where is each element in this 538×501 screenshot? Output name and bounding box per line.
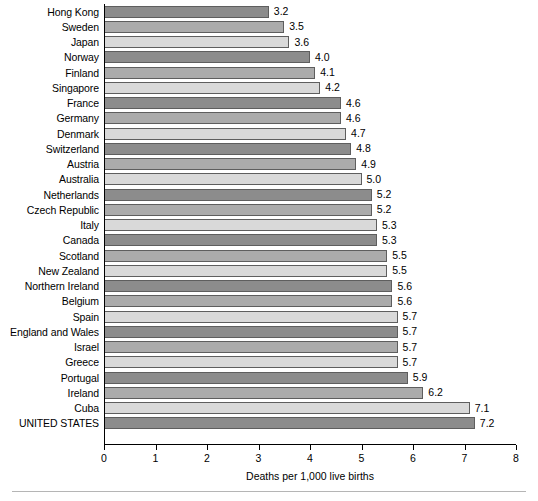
x-axis-tick-label: 8 (501, 452, 531, 464)
chart-bar-row: Japan3.6 (0, 35, 538, 50)
bar-track (104, 82, 320, 94)
bar-track (104, 387, 423, 399)
bar-track (104, 372, 408, 384)
chart-bar-row: Czech Republic5.2 (0, 202, 538, 217)
x-axis-tick (259, 445, 260, 450)
category-label: UNITED STATES (0, 417, 99, 429)
bar-track (104, 311, 398, 323)
bar-track (104, 189, 372, 201)
category-label: England and Wales (0, 326, 99, 338)
bar (104, 112, 341, 124)
category-label: Scotland (0, 250, 99, 262)
chart-bar-row: Greece5.7 (0, 355, 538, 370)
x-axis-tick-label: 2 (192, 452, 222, 464)
x-axis-tick (310, 445, 311, 450)
chart-bar-row: Scotland5.5 (0, 248, 538, 263)
category-label: Spain (0, 311, 99, 323)
chart-bar-row: Italy5.3 (0, 218, 538, 233)
bar (104, 311, 398, 323)
footer-divider-rule (12, 491, 526, 492)
bar (104, 234, 377, 246)
x-axis-tick-label: 6 (398, 452, 428, 464)
chart-bar-row: Norway4.0 (0, 50, 538, 65)
chart-bar-row: Spain5.7 (0, 309, 538, 324)
bar (104, 326, 398, 338)
category-label: Israel (0, 341, 99, 353)
category-label: Portugal (0, 372, 99, 384)
category-label: Australia (0, 173, 99, 185)
x-axis-tick-label: 0 (89, 452, 119, 464)
bar-track (104, 417, 475, 429)
bar-value-label: 5.3 (382, 219, 397, 231)
chart-bar-row: France4.6 (0, 96, 538, 111)
bar (104, 387, 423, 399)
category-label: New Zealand (0, 265, 99, 277)
bar (104, 128, 346, 140)
bar-track (104, 356, 398, 368)
bar (104, 6, 269, 18)
category-label: Italy (0, 219, 99, 231)
chart-bar-row: Singapore4.2 (0, 80, 538, 95)
bar (104, 204, 372, 216)
bar (104, 143, 351, 155)
category-label: Austria (0, 158, 99, 170)
category-label: Ireland (0, 387, 99, 399)
chart-bar-row: England and Wales5.7 (0, 324, 538, 339)
bar (104, 21, 284, 33)
bar-value-label: 5.6 (397, 280, 412, 292)
bar (104, 82, 320, 94)
bar-track (104, 36, 289, 48)
bar-value-label: 4.0 (315, 51, 330, 63)
chart-bar-row: Sweden3.5 (0, 19, 538, 34)
category-label: Cuba (0, 402, 99, 414)
x-axis-tick (413, 445, 414, 450)
category-label: Netherlands (0, 189, 99, 201)
bar (104, 356, 398, 368)
bar-value-label: 5.2 (377, 203, 392, 215)
bar-value-label: 5.6 (397, 295, 412, 307)
bar-value-label: 4.7 (351, 127, 366, 139)
chart-bar-row: Cuba7.1 (0, 401, 538, 416)
bar (104, 341, 398, 353)
bar-value-label: 5.7 (403, 341, 418, 353)
chart-bar-row: Portugal5.9 (0, 370, 538, 385)
bar (104, 97, 341, 109)
chart-bar-row: Finland4.1 (0, 65, 538, 80)
bar-value-label: 5.9 (413, 371, 428, 383)
bar-value-label: 5.5 (392, 264, 407, 276)
bar-value-label: 4.8 (356, 142, 371, 154)
bar-value-label: 5.0 (367, 173, 382, 185)
bar (104, 280, 392, 292)
bar-track (104, 97, 341, 109)
x-axis-title: Deaths per 1,000 live births (104, 470, 516, 482)
x-axis-tick-label: 7 (450, 452, 480, 464)
bar (104, 36, 289, 48)
bar-value-label: 5.5 (392, 249, 407, 261)
chart-bar-row: Ireland6.2 (0, 385, 538, 400)
chart-bar-row: Austria4.9 (0, 157, 538, 172)
bar (104, 250, 387, 262)
x-axis-tick (465, 445, 466, 450)
x-axis-tick-label: 4 (295, 452, 325, 464)
bar-track (104, 280, 392, 292)
bar-value-label: 4.6 (346, 112, 361, 124)
category-label: Denmark (0, 128, 99, 140)
bar-track (104, 265, 387, 277)
bar-value-label: 5.7 (403, 310, 418, 322)
category-label: Belgium (0, 295, 99, 307)
bar (104, 158, 356, 170)
bar-track (104, 326, 398, 338)
bar-value-label: 4.1 (320, 66, 335, 78)
bar-value-label: 4.9 (361, 158, 376, 170)
bar-track (104, 143, 351, 155)
chart-bar-row: UNITED STATES7.2 (0, 416, 538, 431)
bar (104, 402, 470, 414)
x-axis-tick (104, 445, 105, 450)
bar (104, 219, 377, 231)
chart-bar-row: Israel5.7 (0, 340, 538, 355)
bar-value-label: 3.2 (274, 5, 289, 17)
bar-value-label: 4.2 (325, 81, 340, 93)
bar-track (104, 51, 310, 63)
category-label: Japan (0, 36, 99, 48)
bar-track (104, 295, 392, 307)
